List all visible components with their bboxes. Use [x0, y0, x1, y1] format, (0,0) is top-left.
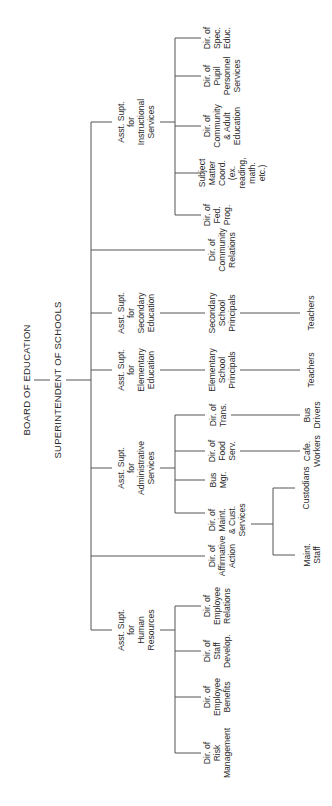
elementary-principals-node: Elementary School Principals: [207, 348, 237, 391]
asst-supt-elementary-node: Asst. Supt. for Elementary Education: [116, 348, 156, 391]
dir-pupil-personnel-node: Dir. of Pupil Personnel Services: [202, 57, 242, 96]
asst-supt-instructional-node: Asst. Supt. for Instructional Services: [116, 99, 156, 145]
dir-maint-cust-node: Dir. of Maint. & Cust. Services: [207, 504, 247, 537]
bus-mgr-node: Bus Mgr.: [208, 472, 228, 489]
dir-affirmative-action-node: Dir. of Affirmative Action: [207, 536, 237, 576]
secondary-teachers-node: Teachers: [306, 296, 316, 331]
cafe-workers-node: Cafe. Workers: [302, 435, 322, 467]
asst-supt-secondary-node: Asst. Supt. for Secondary Education: [116, 292, 156, 334]
dir-employee-benefits-node: Dir. of Employee Benefits: [202, 678, 232, 716]
dir-trans-node: Dir. of Trans.: [208, 403, 228, 427]
asst-supt-human-resources-node: Asst. Supt. for Human Resources: [116, 609, 156, 651]
dir-food-serv-node: Dir. of Food Serv.: [207, 440, 237, 462]
secondary-principals-node: Secondary School Principals: [207, 292, 237, 333]
dir-fed-prog-node: Dir. of Fed. Prog.: [202, 204, 232, 226]
dir-community-relations-node: Dir. of Community Relations: [207, 228, 237, 271]
custodians-node: Custodians: [301, 467, 311, 510]
superintendent-node: SUPERINTENDENT OF SCHOOLS: [53, 302, 63, 459]
subject-matter-coord-node: Subject Matter Coord. (ex. reading, math…: [197, 157, 267, 188]
elementary-teachers-node: Teachers: [306, 353, 316, 388]
dir-staff-develop-node: Dir. of Staff Develop.: [202, 634, 232, 668]
dir-spec-educ-node: Dir. of Spec. Educ.: [202, 27, 232, 49]
maint-staff-node: Maint. Staff: [302, 543, 322, 566]
asst-supt-administrative-node: Asst. Supt. for Administrative Services: [116, 441, 156, 495]
bus-drivers-node: Bus Drivers: [302, 401, 322, 428]
board-of-education-node: BOARD OF EDUCATION: [22, 324, 32, 435]
dir-risk-management-node: Dir. of Risk Management: [202, 728, 232, 778]
dir-employee-relations-node: Dir. of Employee Relations: [202, 587, 232, 625]
dir-community-adult-ed-node: Dir. of Community & Adult Education: [202, 104, 242, 147]
connector-lines: [0, 0, 332, 806]
